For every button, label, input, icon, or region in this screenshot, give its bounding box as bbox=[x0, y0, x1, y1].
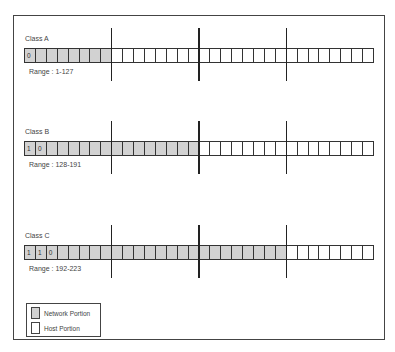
octet-divider bbox=[286, 121, 288, 174]
host-bit-cell bbox=[298, 246, 309, 259]
network-bit-cell bbox=[112, 142, 123, 155]
network-bit-cell bbox=[265, 246, 276, 259]
network-bit-cell bbox=[178, 142, 189, 155]
network-bit-cell bbox=[69, 49, 80, 62]
network-bit-cell bbox=[69, 142, 80, 155]
network-bit-cell bbox=[123, 246, 134, 259]
network-bit-cell: 1 bbox=[36, 246, 47, 259]
range-label: Range : 128-191 bbox=[29, 161, 81, 168]
host-bit-cell bbox=[134, 49, 145, 62]
network-bit-cell bbox=[47, 49, 58, 62]
host-bit-cell bbox=[243, 49, 254, 62]
host-bit-cell bbox=[309, 142, 320, 155]
octet-divider bbox=[111, 121, 113, 174]
network-bit-cell: 1 bbox=[25, 246, 36, 259]
network-bit-cell bbox=[80, 49, 91, 62]
host-bit-cell bbox=[363, 142, 373, 155]
network-bit-cell bbox=[58, 246, 69, 259]
host-swatch-icon bbox=[31, 322, 40, 334]
host-bit-cell bbox=[287, 49, 298, 62]
host-bit-cell bbox=[112, 49, 123, 62]
host-bit-cell bbox=[254, 49, 265, 62]
host-bit-cell bbox=[200, 49, 211, 62]
host-bit-cell bbox=[341, 246, 352, 259]
class-label: Class C bbox=[25, 232, 50, 239]
network-bit-cell bbox=[80, 246, 91, 259]
host-bit-cell bbox=[309, 49, 320, 62]
network-bit-cell bbox=[167, 142, 178, 155]
octet-divider bbox=[286, 28, 288, 81]
octet-divider bbox=[198, 225, 200, 278]
legend: Network Portion Host Portion bbox=[26, 303, 101, 337]
network-bit-cell bbox=[90, 142, 101, 155]
host-bit-cell bbox=[145, 49, 156, 62]
host-bit-cell bbox=[287, 142, 298, 155]
host-bit-cell bbox=[232, 49, 243, 62]
host-bit-cell bbox=[330, 246, 341, 259]
host-bit-cell bbox=[232, 142, 243, 155]
host-bit-cell bbox=[221, 142, 232, 155]
network-bit-cell bbox=[156, 246, 167, 259]
octet-divider bbox=[198, 28, 200, 81]
host-bit-cell bbox=[254, 142, 265, 155]
host-bit-cell bbox=[363, 49, 373, 62]
host-bit-cell bbox=[210, 49, 221, 62]
network-bit-cell bbox=[36, 49, 47, 62]
range-label: Range : 192-223 bbox=[29, 265, 81, 272]
host-bit-cell bbox=[265, 49, 276, 62]
host-bit-cell bbox=[221, 49, 232, 62]
network-bit-cell bbox=[145, 246, 156, 259]
network-bit-cell bbox=[134, 246, 145, 259]
host-bit-cell bbox=[178, 49, 189, 62]
host-bit-cell bbox=[363, 246, 373, 259]
network-bit-cell bbox=[243, 246, 254, 259]
legend-item-host: Host Portion bbox=[31, 322, 80, 334]
network-bit-cell bbox=[134, 142, 145, 155]
host-bit-cell bbox=[352, 142, 363, 155]
host-bit-cell bbox=[341, 49, 352, 62]
host-bit-cell bbox=[352, 246, 363, 259]
host-bit-cell bbox=[287, 246, 298, 259]
network-bit-cell bbox=[112, 246, 123, 259]
network-bit-cell bbox=[47, 142, 58, 155]
legend-label-host: Host Portion bbox=[44, 325, 80, 332]
host-bit-cell bbox=[200, 142, 211, 155]
host-bit-cell bbox=[210, 142, 221, 155]
legend-item-network: Network Portion bbox=[31, 307, 90, 319]
network-bit-cell bbox=[221, 246, 232, 259]
host-bit-cell bbox=[298, 49, 309, 62]
network-bit-cell bbox=[232, 246, 243, 259]
network-bit-cell bbox=[200, 246, 211, 259]
class-label: Class A bbox=[25, 35, 49, 42]
legend-label-network: Network Portion bbox=[44, 310, 90, 317]
host-bit-cell bbox=[341, 142, 352, 155]
network-bit-cell bbox=[123, 142, 134, 155]
network-bit-cell bbox=[58, 49, 69, 62]
octet-divider bbox=[198, 121, 200, 174]
host-bit-cell bbox=[309, 246, 320, 259]
host-bit-cell bbox=[319, 49, 330, 62]
host-bit-cell bbox=[319, 142, 330, 155]
network-bit-cell: 0 bbox=[36, 142, 47, 155]
network-bit-cell bbox=[90, 49, 101, 62]
network-bit-cell bbox=[254, 246, 265, 259]
network-bit-cell: 0 bbox=[47, 246, 58, 259]
octet-divider bbox=[286, 225, 288, 278]
host-bit-cell bbox=[319, 246, 330, 259]
class-label: Class B bbox=[25, 128, 49, 135]
network-bit-cell bbox=[90, 246, 101, 259]
host-bit-cell bbox=[298, 142, 309, 155]
host-bit-cell bbox=[123, 49, 134, 62]
octet-divider bbox=[111, 225, 113, 278]
network-bit-cell bbox=[178, 246, 189, 259]
host-bit-cell bbox=[156, 49, 167, 62]
network-bit-cell bbox=[156, 142, 167, 155]
network-bit-cell bbox=[210, 246, 221, 259]
host-bit-cell bbox=[330, 49, 341, 62]
network-bit-cell bbox=[80, 142, 91, 155]
network-bit-cell bbox=[58, 142, 69, 155]
host-bit-cell bbox=[243, 142, 254, 155]
network-bit-cell bbox=[145, 142, 156, 155]
range-label: Range : 1-127 bbox=[29, 68, 73, 75]
host-bit-cell bbox=[352, 49, 363, 62]
